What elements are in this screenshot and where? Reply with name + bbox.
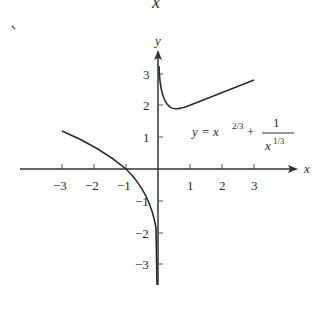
x-tick-label: 1 [187,178,194,193]
equation-plus: + [247,124,254,139]
y-tick-label: −2 [135,226,149,241]
top-label: x [151,0,160,12]
x-tick-label: −2 [85,178,99,193]
y-tick-label: −3 [135,257,149,272]
x-tick-label: −1 [117,178,131,193]
x-tick-label: −3 [53,178,67,193]
right-branch-curve [159,66,254,109]
x-tick-labels: −3 −2 −1 1 2 3 [53,178,258,193]
y-tick-label: 3 [143,67,150,82]
equation-denominator: x [264,138,271,153]
equation-numerator: 1 [273,115,280,130]
y-tick-label: 2 [143,98,150,113]
y-axis-label: y [153,33,161,48]
x-tick-label: 3 [251,178,258,193]
equation-lhs: y = x [190,124,219,139]
graph: x x y −3 −2 −1 1 2 3 3 2 1 −1 −2 [0,0,320,309]
equation-exponent-2: 1/3 [273,136,285,146]
y-tick-label: 1 [143,130,150,145]
equation-exponent-1: 2/3 [232,121,244,131]
x-axis-label: x [303,161,310,176]
equation-label: y = x 2/3 + 1 x 1/3 [190,115,294,153]
stray-mark [12,26,15,29]
x-tick-label: 2 [219,178,226,193]
